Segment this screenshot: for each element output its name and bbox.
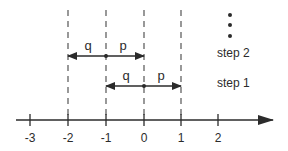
step-1-label: step 1 bbox=[217, 76, 250, 90]
step-2-origin-dot bbox=[104, 54, 108, 58]
step-1-q-label: q bbox=[122, 68, 129, 83]
number-line-diagram: -3 -2 -1 0 1 2 q p q p step 2 step 1 bbox=[0, 0, 288, 151]
vertical-ellipsis-icon bbox=[228, 13, 232, 38]
tick-label-0: 0 bbox=[141, 131, 148, 145]
step-2-q-label: q bbox=[84, 38, 91, 53]
tick-label-1: 1 bbox=[178, 131, 185, 145]
step-1-arrows bbox=[106, 84, 181, 88]
tick-label-minus-2: -2 bbox=[63, 131, 74, 145]
tick-label-2: 2 bbox=[215, 131, 222, 145]
tick-label-minus-1: -1 bbox=[101, 131, 112, 145]
step-2-arrows bbox=[68, 54, 144, 58]
step-1-origin-dot bbox=[142, 84, 146, 88]
dashed-guides bbox=[68, 10, 181, 120]
step-1-p-label: p bbox=[157, 68, 164, 83]
step-2-p-label: p bbox=[119, 38, 126, 53]
tick-label-minus-3: -3 bbox=[25, 131, 36, 145]
step-2-label: step 2 bbox=[217, 46, 250, 60]
number-line-axis: -3 -2 -1 0 1 2 bbox=[16, 114, 273, 145]
